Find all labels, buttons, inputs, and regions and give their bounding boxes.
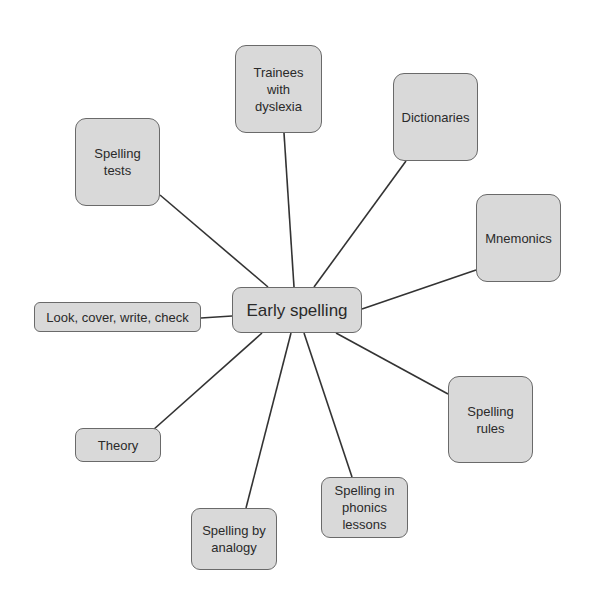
link-dictionaries (314, 161, 406, 287)
node-spelling-tests: Spelling tests (75, 118, 160, 206)
node-early-spelling: Early spelling (232, 287, 362, 333)
link-mnemonics (362, 270, 476, 309)
node-label: Mnemonics (485, 230, 551, 247)
node-label: Spelling tests (88, 145, 148, 179)
node-label: Spelling rules (461, 403, 521, 437)
node-label: Early spelling (246, 302, 347, 319)
link-spelling-tests (160, 195, 268, 287)
node-label: Spelling by analogy (196, 522, 272, 556)
link-spelling-rules (336, 333, 448, 394)
node-spelling-in-phonics-lessons: Spelling in phonics lessons (321, 477, 408, 538)
node-label: Look, cover, write, check (46, 309, 188, 326)
node-trainees-with-dyslexia: Trainees with dyslexia (235, 45, 322, 133)
node-spelling-by-analogy: Spelling by analogy (191, 508, 277, 570)
node-spelling-rules: Spelling rules (448, 376, 533, 463)
node-label: Spelling in phonics lessons (332, 482, 398, 533)
node-look-cover-write-check: Look, cover, write, check (34, 302, 201, 332)
node-mnemonics: Mnemonics (476, 194, 561, 282)
node-label: Trainees with dyslexia (249, 64, 309, 115)
link-theory (153, 333, 262, 430)
link-trainees (284, 133, 294, 287)
link-analogy (246, 333, 291, 508)
node-theory: Theory (75, 428, 161, 462)
node-label: Dictionaries (402, 109, 470, 126)
link-phonics (304, 333, 352, 477)
node-dictionaries: Dictionaries (393, 73, 478, 161)
link-look-cover (201, 316, 232, 318)
node-label: Theory (98, 437, 138, 454)
